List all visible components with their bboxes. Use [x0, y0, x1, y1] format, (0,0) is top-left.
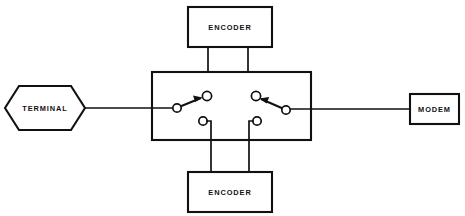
encoder-top-label: ENCODER	[208, 23, 251, 32]
diagram-svg: ENCODER TERMINAL MODEM	[0, 0, 465, 216]
terminal-node: TERMINAL	[5, 86, 85, 130]
left-switch-pivot-contact[interactable]	[173, 104, 181, 112]
encoder-bottom-node: ENCODER	[188, 172, 272, 212]
right-switch-pivot-contact[interactable]	[282, 106, 290, 114]
right-switch-upper-contact[interactable]	[251, 91, 260, 100]
terminal-label: TERMINAL	[22, 104, 67, 113]
encoder-top-node: ENCODER	[188, 7, 272, 47]
modem-node: MODEM	[410, 94, 459, 124]
left-switch-upper-contact[interactable]	[202, 91, 211, 100]
right-switch-lower-contact[interactable]	[253, 117, 261, 125]
left-switch-lower-contact[interactable]	[199, 117, 207, 125]
modem-label: MODEM	[418, 105, 451, 114]
encoder-bottom-label: ENCODER	[208, 188, 251, 197]
diagram-canvas: ENCODER TERMINAL MODEM	[0, 0, 465, 216]
